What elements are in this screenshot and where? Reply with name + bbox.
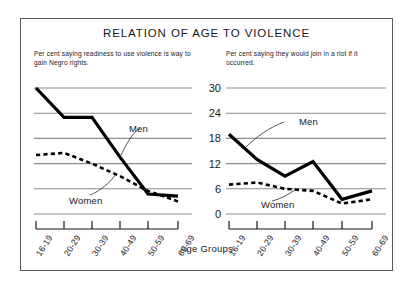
series-line-women-right: [229, 183, 372, 204]
series-line-men-left: [36, 88, 178, 196]
series-line-women-left: [36, 153, 178, 202]
leader-men-right: [246, 122, 284, 147]
y-axis-labels: 30 24 18 12 6 0: [194, 87, 224, 219]
plot-svg-left: [34, 87, 192, 219]
plot-svg-right: [226, 87, 386, 219]
page-title: RELATION OF AGE TO VIOLENCE: [21, 27, 392, 39]
series-annotation-women-left: Women: [69, 195, 103, 206]
series-annotation-men-left: Men: [129, 123, 148, 134]
y-tick-18: 18: [209, 132, 221, 144]
series-line-men-right: [229, 134, 372, 199]
x-axis-title: Age Groups: [21, 243, 392, 254]
y-tick-12: 12: [209, 158, 221, 170]
plot-area-right: [226, 87, 386, 219]
leader-women-left: [90, 174, 116, 195]
y-tick-24: 24: [209, 107, 221, 119]
chart-figure: RELATION OF AGE TO VIOLENCE Per cent say…: [20, 18, 393, 271]
panel-subtitle-left: Per cent saying readiness to use violenc…: [34, 49, 194, 67]
y-tick-30: 30: [209, 82, 221, 94]
series-annotation-men-right: Men: [299, 116, 318, 127]
panel-subtitle-right: Per cent saying they would join in a rio…: [226, 49, 386, 67]
y-tick-0: 0: [215, 208, 221, 220]
plot-area-left: [34, 87, 192, 219]
series-annotation-women-right: Women: [261, 199, 295, 210]
y-tick-6: 6: [215, 183, 221, 195]
